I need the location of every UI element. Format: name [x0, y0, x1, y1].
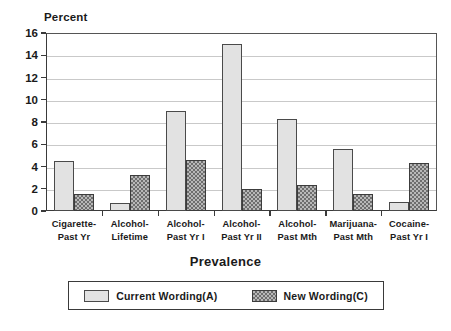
x-axis-tick	[381, 211, 382, 216]
legend-label-current: Current Wording(A)	[116, 290, 217, 302]
bars-layer	[46, 33, 437, 211]
bar-new-wording	[297, 185, 317, 211]
y-axis-tick-label: 14	[4, 49, 38, 61]
x-axis-tick	[158, 211, 159, 216]
legend-label-new: New Wording(C)	[284, 290, 368, 302]
bar-chart: Percent 0246810121416 Cigarette-Past YrA…	[0, 0, 451, 331]
x-axis-labels: Cigarette-Past YrAlcohol-LifetimeAlcohol…	[46, 218, 437, 252]
x-axis-tick	[269, 211, 270, 216]
bar-current-wording	[389, 202, 409, 211]
y-axis-tick-label: 16	[4, 27, 38, 39]
x-axis-category-label: Alcohol-Past Yr II	[214, 218, 270, 243]
legend-item-new-wording: New Wording(C)	[252, 290, 368, 302]
bar-new-wording	[353, 194, 373, 211]
bar-current-wording	[54, 161, 74, 211]
x-axis-tick	[325, 211, 326, 216]
x-axis-tick	[214, 211, 215, 216]
y-axis-tick-label: 6	[4, 138, 38, 150]
y-axis-tick-label: 0	[4, 205, 38, 217]
x-axis-tick	[102, 211, 103, 216]
chart-legend: Current Wording(A) New Wording(C)	[68, 281, 384, 310]
y-axis-tick-label: 4	[4, 161, 38, 173]
x-axis-category-label: Alcohol-Past Mth	[269, 218, 325, 243]
bar-current-wording	[277, 119, 297, 211]
y-axis-tick-label: 2	[4, 183, 38, 195]
bar-current-wording	[166, 111, 186, 211]
legend-item-current-wording: Current Wording(A)	[84, 290, 217, 302]
x-axis-category-label: Alcohol-Past Yr I	[158, 218, 214, 243]
x-axis-title: Prevalence	[0, 254, 451, 269]
bar-new-wording	[74, 194, 94, 211]
bar-new-wording	[409, 163, 429, 211]
legend-swatch-icon-current	[84, 290, 109, 302]
x-axis-category-label: Cocaine-Past Yr I	[381, 218, 437, 243]
legend-swatch-icon-new	[252, 290, 277, 302]
x-axis-category-label: Alcohol-Lifetime	[102, 218, 158, 243]
bar-current-wording	[333, 149, 353, 211]
x-axis-category-label: Cigarette-Past Yr	[46, 218, 102, 243]
y-axis-tick-label: 8	[4, 116, 38, 128]
y-axis-tick-label: 10	[4, 94, 38, 106]
bar-current-wording	[222, 44, 242, 211]
bar-current-wording	[110, 203, 130, 211]
y-axis-tick-label: 12	[4, 72, 38, 84]
bar-new-wording	[242, 189, 262, 211]
bar-new-wording	[186, 160, 206, 211]
bar-new-wording	[130, 175, 150, 211]
y-axis-title: Percent	[44, 11, 88, 23]
x-axis-category-label: Marijuana-Past Mth	[325, 218, 381, 243]
